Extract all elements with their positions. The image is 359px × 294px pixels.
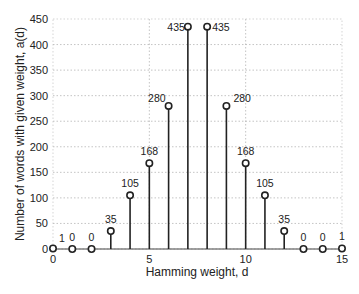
y-tick-label: 450 (30, 13, 48, 25)
data-label: 280 (148, 92, 166, 104)
x-tick-label: 5 (146, 253, 152, 265)
stem-marker (223, 103, 229, 109)
plot-frame (53, 19, 342, 249)
data-label: 105 (256, 177, 274, 189)
stem-marker (69, 246, 75, 252)
data-label: 1 (59, 232, 65, 244)
grid-lines (53, 19, 342, 249)
y-tick-label: 400 (30, 39, 48, 51)
stem-marker (127, 192, 133, 198)
data-label: 0 (301, 231, 307, 243)
stem-marker (300, 246, 306, 252)
stem-marker (146, 160, 152, 166)
data-label: 435 (212, 21, 230, 33)
stem-marker (88, 246, 94, 252)
stem-marker (50, 245, 56, 251)
stem-marker (281, 228, 287, 234)
stem-chart: 1003510516828043543528016810535001 05010… (0, 0, 359, 294)
y-tick-label: 250 (30, 115, 48, 127)
x-tick-label: 10 (240, 253, 252, 265)
stem-marker (204, 23, 210, 29)
data-label: 35 (105, 213, 117, 225)
y-tick-label: 100 (30, 192, 48, 204)
stem-marker (185, 23, 191, 29)
stem-marker (320, 246, 326, 252)
y-tick-label: 200 (30, 141, 48, 153)
data-label: 1 (339, 230, 345, 242)
data-label: 0 (69, 231, 75, 243)
data-label: 0 (89, 231, 95, 243)
stems: 1003510516828043543528016810535001 (50, 21, 345, 253)
y-tick-label: 50 (36, 217, 48, 229)
stem-marker (242, 160, 248, 166)
y-tick-label: 150 (30, 166, 48, 178)
stem-marker (108, 228, 114, 234)
x-axis-label: Hamming weight, d (146, 265, 249, 279)
data-label: 280 (233, 92, 251, 104)
y-axis-label: Number of words with given weight, a(d) (13, 27, 27, 241)
data-label: 435 (167, 21, 185, 33)
data-label: 105 (121, 177, 139, 189)
y-tick-label: 0 (42, 243, 48, 255)
data-label: 168 (237, 145, 255, 157)
stem-marker (165, 103, 171, 109)
stem-marker (339, 245, 345, 251)
data-label: 0 (320, 231, 326, 243)
data-label: 35 (278, 213, 290, 225)
x-tick-label: 0 (50, 253, 56, 265)
y-tick-labels: 050100150200250300350400450 (30, 13, 48, 255)
x-tick-labels: 051015 (50, 253, 348, 265)
x-tick-label: 15 (336, 253, 348, 265)
data-label: 168 (141, 145, 159, 157)
y-tick-label: 350 (30, 64, 48, 76)
stem-marker (262, 192, 268, 198)
y-tick-label: 300 (30, 90, 48, 102)
